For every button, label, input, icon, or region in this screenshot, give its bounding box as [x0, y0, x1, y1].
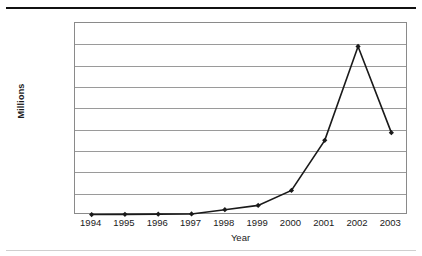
series-polyline [92, 46, 392, 214]
x-tick-label: 2003 [370, 217, 410, 228]
data-point-marker [222, 207, 227, 212]
x-axis-title: Year [74, 232, 407, 243]
data-point-marker [389, 130, 394, 135]
data-point-marker [256, 203, 261, 208]
plot-area [74, 22, 407, 214]
chart-figure: Millions $0$500$1,000$1,500$2,000$2,500$… [0, 0, 422, 256]
data-point-marker [355, 44, 360, 49]
data-series-line [75, 23, 408, 215]
